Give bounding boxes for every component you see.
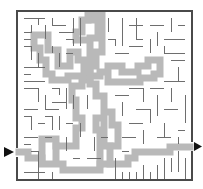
maze-board — [0, 0, 203, 189]
exit-arrow-icon — [194, 142, 202, 151]
entrance-arrow-icon — [4, 147, 14, 157]
